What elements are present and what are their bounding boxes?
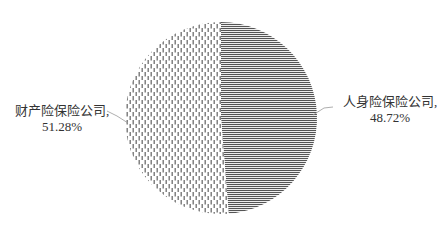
label-life-insurance-percent: 48.72% bbox=[370, 110, 410, 125]
label-life-insurance-name: 人身险保险公司, bbox=[343, 94, 437, 109]
pie-slices bbox=[125, 22, 317, 214]
pie-chart-canvas: 人身险保险公司, 48.72% 财产险保险公司, 51.28% bbox=[0, 0, 447, 234]
pie-slice-life-insurance bbox=[221, 22, 317, 214]
label-property-insurance-percent: 51.28% bbox=[42, 119, 82, 134]
pie-slice-property-insurance bbox=[125, 22, 229, 214]
pie-chart: 人身险保险公司, 48.72% 财产险保险公司, 51.28% bbox=[0, 0, 447, 234]
label-property-insurance-name: 财产险保险公司, bbox=[15, 103, 109, 118]
leader-line-property-insurance bbox=[107, 111, 128, 123]
